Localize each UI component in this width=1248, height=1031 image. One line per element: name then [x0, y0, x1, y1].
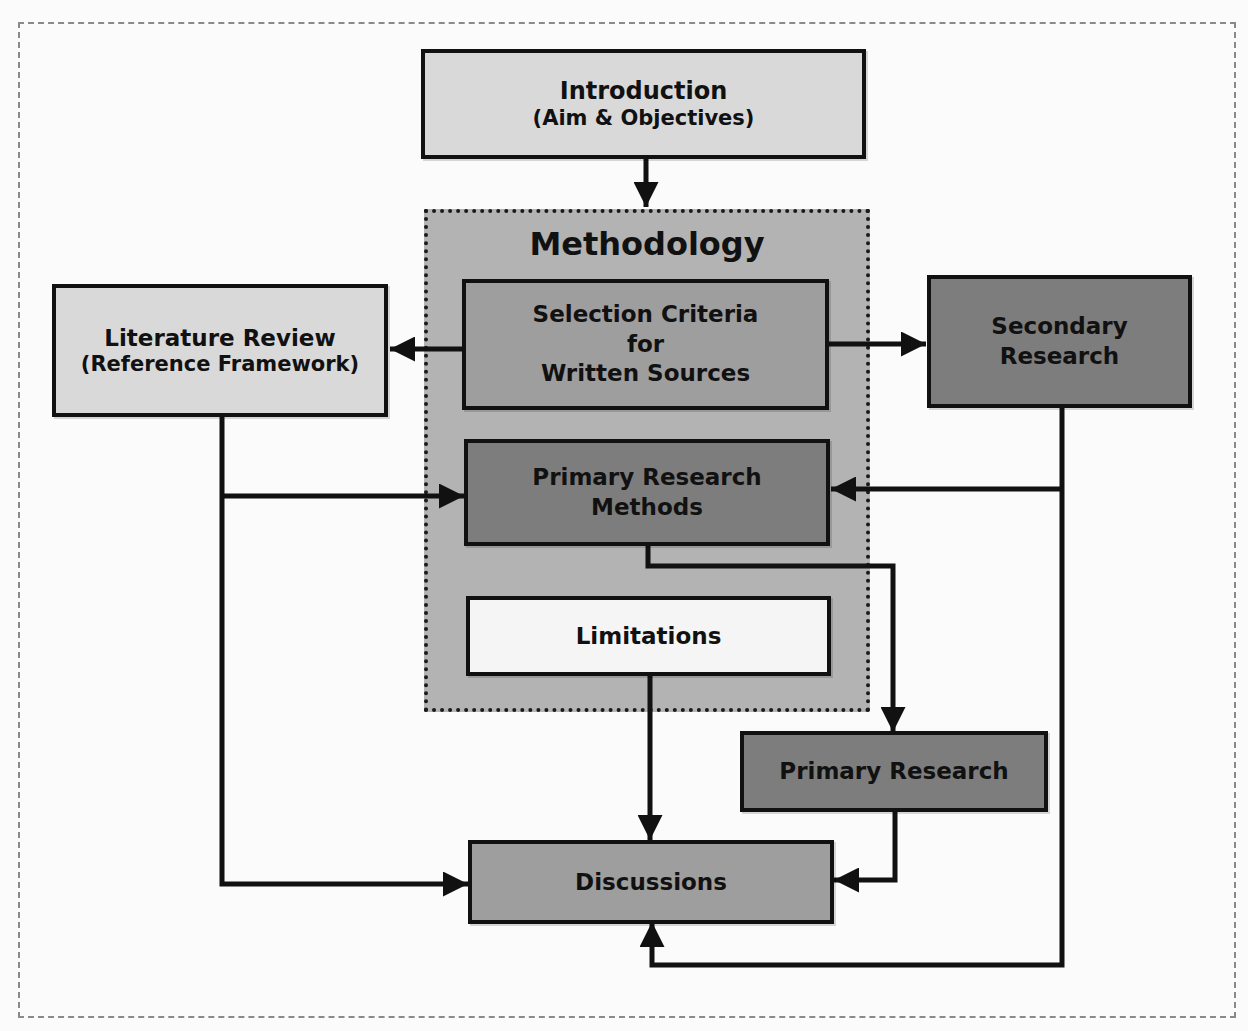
literature-review-subtitle: (Reference Framework) [81, 352, 359, 376]
selection-criteria-line2: for [627, 330, 664, 360]
node-discussions: Discussions [468, 840, 834, 924]
primary-research-methods-line1: Primary Research [532, 463, 761, 493]
secondary-research-line2: Research [1000, 342, 1119, 372]
node-primary-research-methods: Primary Research Methods [464, 439, 830, 546]
secondary-research-line1: Secondary [991, 312, 1127, 342]
introduction-subtitle: (Aim & Objectives) [533, 106, 755, 130]
node-literature-review: Literature Review (Reference Framework) [52, 284, 388, 417]
selection-criteria-line1: Selection Criteria [533, 300, 759, 330]
discussions-label: Discussions [575, 869, 727, 895]
node-primary-research: Primary Research [740, 731, 1048, 812]
limitations-label: Limitations [576, 623, 722, 649]
literature-review-title: Literature Review [104, 325, 335, 351]
edge-primaryresearch-discussions [834, 810, 895, 880]
edge-literature-discussions [222, 416, 468, 884]
primary-research-methods-line2: Methods [591, 493, 703, 523]
node-selection-criteria: Selection Criteria for Written Sources [462, 279, 829, 410]
introduction-title: Introduction [560, 78, 728, 106]
node-limitations: Limitations [466, 596, 831, 676]
primary-research-label: Primary Research [779, 758, 1008, 784]
selection-criteria-line3: Written Sources [541, 359, 750, 389]
node-introduction: Introduction (Aim & Objectives) [421, 49, 866, 159]
node-secondary-research: Secondary Research [927, 275, 1192, 408]
